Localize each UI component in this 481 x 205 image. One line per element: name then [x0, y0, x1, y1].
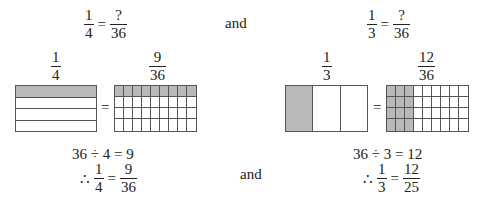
grid-cell: [151, 97, 160, 108]
grid-cell: [450, 119, 459, 130]
grid-cell: [115, 97, 124, 108]
grid-cell: [387, 108, 396, 119]
grid-cell: [450, 86, 459, 97]
result-left: ∴ 14 = 936: [80, 162, 137, 195]
grid-cell: [142, 119, 151, 130]
top-left-equation: 1 4 = ? 36: [84, 8, 127, 41]
grid-cell: [178, 86, 187, 97]
grid-cell: [387, 119, 396, 130]
fraction: 1 4: [84, 8, 94, 41]
grid-cell: [432, 86, 441, 97]
label-twelve-thirtysixths: 1236: [418, 50, 435, 83]
equals-sign: =: [373, 99, 381, 116]
grid-cell: [432, 97, 441, 108]
grid-cell: [160, 97, 169, 108]
grid-cell: [187, 97, 196, 108]
grid-cell: [387, 86, 396, 97]
grid-cell: [187, 119, 196, 130]
grid-cell: [160, 108, 169, 119]
grid-cell: [124, 86, 133, 97]
grid-cell: [160, 119, 169, 130]
grid-cell: [187, 86, 196, 97]
grid-cell: [450, 97, 459, 108]
grid-cell: [169, 86, 178, 97]
grid-cell: [414, 119, 423, 130]
grid-cell: [396, 119, 405, 130]
grid-cell: [133, 86, 142, 97]
quarter-model: [15, 85, 97, 132]
grid-cell: [414, 108, 423, 119]
fraction: ? 36: [393, 8, 410, 41]
grid-cell: [115, 119, 124, 130]
third-model: [285, 85, 368, 132]
label-nine-thirtysixths: 936: [149, 50, 166, 83]
grid-cell: [414, 97, 423, 108]
grid-cell: [115, 108, 124, 119]
grid-cell: [450, 108, 459, 119]
grid-cell: [396, 97, 405, 108]
grid-cell: [151, 108, 160, 119]
grid-cell: [142, 108, 151, 119]
grid-cell: [414, 86, 423, 97]
grid-cell: [405, 119, 414, 130]
grid-cell: [169, 119, 178, 130]
grid-cell: [396, 108, 405, 119]
grid-cell: [432, 108, 441, 119]
grid-cell: [115, 86, 124, 97]
grid-cell: [169, 108, 178, 119]
grid-cell: [441, 86, 450, 97]
top-right-equation: 1 3 = ? 36: [367, 8, 410, 41]
fraction: ? 36: [110, 8, 127, 41]
grid-cell: [151, 119, 160, 130]
grid-cell: [160, 86, 169, 97]
grid-cell: [169, 97, 178, 108]
grid-cell: [124, 108, 133, 119]
label-one-quarter: 14: [51, 50, 61, 83]
grid-cell: [133, 97, 142, 108]
grid-cell: [459, 97, 468, 108]
grid-cell: [124, 119, 133, 130]
grid-cell: [459, 86, 468, 97]
fraction: 1 3: [367, 8, 377, 41]
grid-cell: [423, 97, 432, 108]
equals-sign: =: [101, 99, 109, 116]
result-right: ∴ 13 = 1225: [363, 162, 420, 195]
grid-cell: [423, 108, 432, 119]
grid-cell: [441, 97, 450, 108]
grid-cell: [459, 119, 468, 130]
grid-cell: [405, 108, 414, 119]
thirtysix-grid-right: [386, 85, 469, 132]
grid-cell: [187, 108, 196, 119]
grid-cell: [459, 108, 468, 119]
grid-cell: [387, 97, 396, 108]
grid-cell: [133, 108, 142, 119]
grid-cell: [441, 119, 450, 130]
grid-cell: [396, 86, 405, 97]
grid-cell: [142, 86, 151, 97]
grid-cell: [432, 119, 441, 130]
grid-cell: [178, 119, 187, 130]
grid-cell: [151, 86, 160, 97]
grid-cell: [124, 97, 133, 108]
grid-cell: [405, 86, 414, 97]
grid-cell: [178, 108, 187, 119]
grid-cell: [441, 108, 450, 119]
grid-cell: [405, 97, 414, 108]
grid-cell: [423, 119, 432, 130]
grid-cell: [423, 86, 432, 97]
grid-cell: [178, 97, 187, 108]
thirtysix-grid-left: [114, 85, 197, 132]
and-connector-top: and: [225, 15, 247, 32]
label-one-third: 13: [322, 50, 332, 83]
and-connector-bottom: and: [240, 166, 262, 183]
grid-cell: [133, 119, 142, 130]
grid-cell: [142, 97, 151, 108]
